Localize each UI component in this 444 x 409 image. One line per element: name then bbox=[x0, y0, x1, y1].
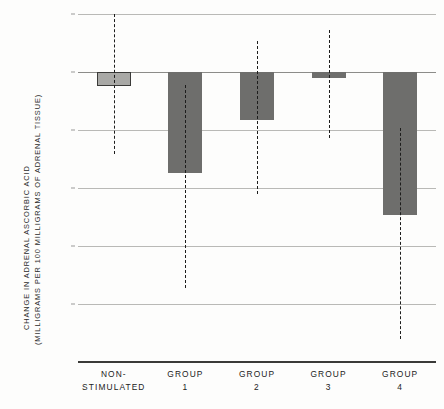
error-bar bbox=[185, 85, 186, 288]
y-axis-title: CHANGE IN ADRENAL ASCORBIC ACID (MILLIGR… bbox=[0, 0, 44, 360]
x-axis-category-label-line-1: GROUP bbox=[167, 369, 203, 379]
x-axis-category-label: GROUP2 bbox=[239, 368, 275, 393]
gridline bbox=[78, 304, 436, 305]
x-axis-category-label: GROUP4 bbox=[382, 368, 418, 393]
y-axis-tick-mark bbox=[71, 14, 75, 15]
x-axis-category-label: GROUP1 bbox=[167, 368, 203, 393]
y-axis-tick-mark bbox=[71, 72, 75, 73]
y-axis-tick-mark bbox=[71, 246, 75, 247]
y-axis-tick-mark bbox=[71, 188, 75, 189]
y-axis-tick-mark bbox=[71, 304, 75, 305]
x-axis-category-label: NON-STIMULATED bbox=[82, 368, 145, 393]
x-axis-category-label: GROUP3 bbox=[310, 368, 346, 393]
error-bar bbox=[257, 41, 258, 194]
axis-baseline bbox=[78, 361, 436, 363]
chart-container: CHANGE IN ADRENAL ASCORBIC ACID (MILLIGR… bbox=[0, 0, 444, 409]
error-bar bbox=[329, 30, 330, 138]
x-axis-category-label-line-2: 4 bbox=[382, 381, 418, 394]
error-bar bbox=[114, 14, 115, 154]
plot-area: +500-50-100-150-200-250 bbox=[78, 14, 436, 362]
y-axis-tick-mark bbox=[71, 130, 75, 131]
x-axis-category-label-line-1: GROUP bbox=[382, 369, 418, 379]
x-axis-category-label-line-1: GROUP bbox=[310, 369, 346, 379]
x-axis-labels: NON-STIMULATEDGROUP1GROUP2GROUP3GROUP4 bbox=[78, 368, 436, 408]
x-axis-category-label-line-1: NON- bbox=[101, 369, 127, 379]
y-axis-title-line-1: CHANGE IN ADRENAL ASCORBIC ACID bbox=[22, 165, 31, 330]
gridline bbox=[78, 14, 436, 15]
x-axis-category-label-line-2: 1 bbox=[167, 381, 203, 394]
gridline bbox=[78, 246, 436, 247]
error-bar bbox=[400, 128, 401, 339]
y-axis-title-line-2: (MILLIGRAMS PER 100 MILLIGRAMS OF ADRENA… bbox=[33, 94, 42, 345]
x-axis-category-label-line-2: STIMULATED bbox=[82, 381, 145, 394]
x-axis-category-label-line-2: 2 bbox=[239, 381, 275, 394]
x-axis-category-label-line-2: 3 bbox=[310, 381, 346, 394]
x-axis-category-label-line-1: GROUP bbox=[239, 369, 275, 379]
